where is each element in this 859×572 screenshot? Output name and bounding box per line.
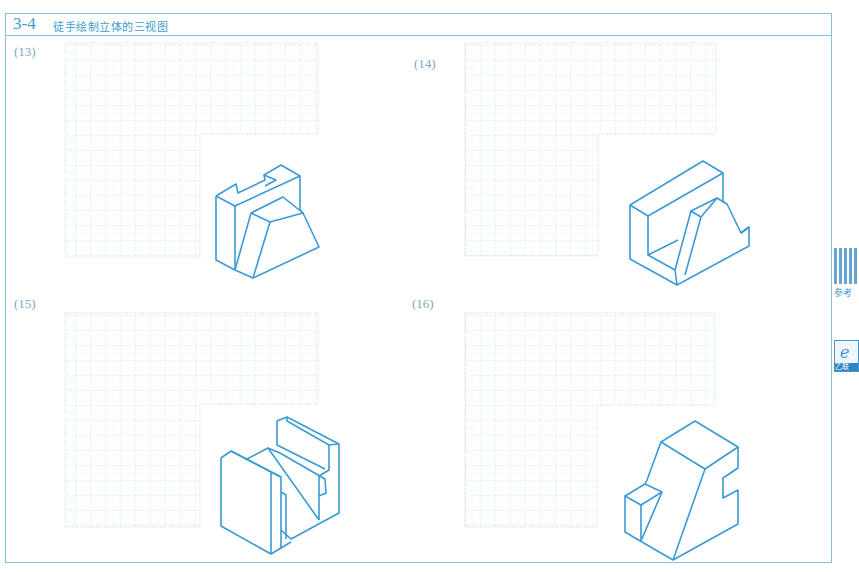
isometric-figures: [0, 0, 859, 572]
app-link-button[interactable]: e 乙联: [834, 340, 859, 372]
app-link-label: 乙联: [835, 363, 858, 371]
figure-14: [630, 161, 749, 285]
qr-code-icon[interactable]: [834, 248, 859, 284]
figure-15: [221, 417, 339, 554]
figure-16: [625, 421, 738, 560]
app-logo-icon: e: [840, 343, 849, 362]
qr-code-label: 参考: [834, 286, 859, 299]
figure-13: [216, 165, 319, 278]
